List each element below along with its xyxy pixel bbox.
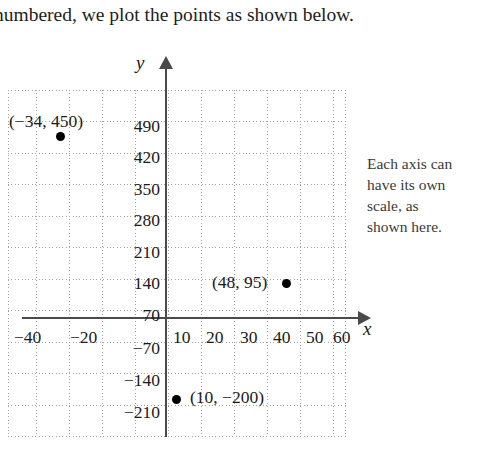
- side-note-line: Each axis can: [367, 153, 487, 174]
- y-tick-label-group: 490 420 350 280 210 140 70 −70 −140 −210: [98, 48, 160, 450]
- y-axis-arrow-icon: [159, 56, 173, 69]
- grid-line-horizontal: [8, 153, 346, 154]
- grid-line-horizontal: [8, 436, 346, 437]
- grid-line-vertical: [333, 90, 334, 437]
- x-tick-label: 20: [206, 329, 224, 347]
- point-48-95-label: (48, 95): [212, 274, 267, 292]
- grid-line-vertical: [36, 90, 37, 437]
- grid-line-vertical: [300, 90, 301, 437]
- x-tick-label: 30: [240, 329, 258, 347]
- point-minus34-450-dot: [56, 132, 65, 141]
- grid-line-vertical: [201, 90, 202, 437]
- y-tick-label: 210: [100, 244, 160, 262]
- side-note-line: scale, as: [367, 195, 487, 216]
- x-tick-label: −20: [70, 329, 97, 347]
- x-axis-label: x: [363, 318, 371, 340]
- x-axis: [22, 317, 362, 319]
- grid-line-vertical: [168, 90, 169, 437]
- x-tick-label: 60: [333, 329, 351, 347]
- y-tick-label: 140: [100, 275, 160, 293]
- y-tick-label: −70: [100, 340, 160, 358]
- grid-line-horizontal: [8, 405, 346, 406]
- x-tick-label: 40: [273, 329, 291, 347]
- grid-line-vertical: [69, 90, 70, 437]
- grid-line-horizontal: [8, 310, 346, 311]
- y-tick-label: 350: [100, 181, 160, 199]
- y-tick-label: −210: [100, 404, 160, 422]
- y-tick-label: 280: [100, 212, 160, 230]
- grid-line-horizontal: [8, 216, 346, 217]
- y-tick-label: 490: [100, 118, 160, 136]
- intro-sentence: numbered, we plot the points as shown be…: [0, 2, 487, 28]
- plot-grid: [8, 90, 346, 437]
- point-10-minus200-label: (10, −200): [190, 389, 264, 407]
- grid-line-vertical: [234, 90, 235, 437]
- point-48-95-dot: [282, 279, 291, 288]
- side-note-line: have its own: [367, 174, 487, 195]
- coordinate-plane-figure: y x 490 420 350 280 210 140 70 −70 −140 …: [0, 48, 487, 450]
- grid-line-horizontal: [8, 373, 346, 374]
- y-tick-label: −140: [100, 372, 160, 390]
- side-note: Each axis can have its own scale, as sho…: [367, 153, 487, 237]
- grid-line-vertical: [8, 90, 9, 437]
- x-tick-label: 50: [306, 329, 324, 347]
- point-10-minus200-dot: [172, 395, 181, 404]
- x-tick-label: −40: [14, 329, 41, 347]
- y-tick-label: 420: [100, 149, 160, 167]
- grid-line-horizontal: [8, 90, 346, 91]
- grid-line-horizontal: [8, 247, 346, 248]
- point-minus34-450-label: (−34, 450): [9, 113, 83, 131]
- grid-line-horizontal: [8, 279, 346, 280]
- grid-line-horizontal: [8, 184, 346, 185]
- x-tick-label: 10: [173, 329, 191, 347]
- y-axis: [165, 66, 167, 437]
- grid-line-vertical: [345, 90, 346, 437]
- side-note-line: shown here.: [367, 216, 487, 237]
- grid-line-vertical: [267, 90, 268, 437]
- y-tick-label: 70: [100, 307, 160, 325]
